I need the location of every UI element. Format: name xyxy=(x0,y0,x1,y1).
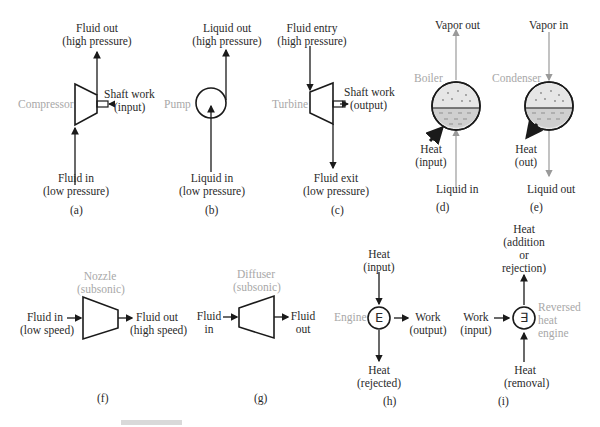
caption-i: (i) xyxy=(498,395,509,407)
diffuser-device-label: Diffuser(subsonic) xyxy=(233,268,279,294)
condenser-vapor-in-label: Vapor in xyxy=(529,19,568,32)
reversed-engine-heat-top-label: Heat(additionorrejection) xyxy=(500,223,548,275)
turbine-shaft-work-label: Shaft work(output) xyxy=(344,86,395,112)
scroll-indicator-bar xyxy=(121,420,182,425)
compressor-shaft-work-label: Shaft work(input) xyxy=(104,88,155,114)
reversed-engine-device-label: Reversedheatengine xyxy=(538,301,581,340)
condenser-liquid-out-label: Liquid out xyxy=(527,183,575,196)
nozzle-inlet-label: Fluid in(low speed) xyxy=(20,311,70,337)
engine-heat-rejected-label: Heat(rejected) xyxy=(357,364,401,390)
reversed-engine-work-input-label: Work(input) xyxy=(460,311,492,337)
condenser-heat-label: Heat(out) xyxy=(510,143,542,169)
caption-c: (c) xyxy=(331,204,344,216)
compressor-inlet-label: Fluid in(low pressure) xyxy=(40,172,112,198)
diagram-canvas xyxy=(0,0,600,427)
boiler-device-label: Boiler xyxy=(414,72,443,85)
compressor-device-label: Compressor xyxy=(18,98,74,111)
caption-e: (e) xyxy=(530,201,543,213)
pump-device-label: Pump xyxy=(164,98,191,111)
caption-d: (d) xyxy=(436,201,449,213)
compressor-outlet-label: Fluid out(high pressure) xyxy=(62,22,132,48)
caption-h: (h) xyxy=(383,395,396,407)
nozzle-device-label: Nozzle(subsonic) xyxy=(77,270,123,296)
turbine-inlet-label: Fluid entry(high pressure) xyxy=(276,22,348,48)
caption-f: (f) xyxy=(97,392,109,404)
engine-symbol-glyph: E xyxy=(373,311,385,324)
reversed-engine-heat-removal-label: Heat(removal) xyxy=(504,364,546,390)
reversed-engine-symbol-glyph: ∃ xyxy=(518,311,530,324)
nozzle-symbol xyxy=(67,297,132,339)
compressor-symbol xyxy=(75,52,112,185)
boiler-liquid-in-label: Liquid in xyxy=(436,183,479,196)
diffuser-symbol xyxy=(223,296,288,338)
engine-work-output-label: Work(output) xyxy=(408,311,448,337)
pump-outlet-label: Liquid out(high pressure) xyxy=(191,22,263,48)
turbine-symbol xyxy=(310,46,348,168)
engine-heat-input-label: Heat(input) xyxy=(362,248,396,274)
caption-a: (a) xyxy=(70,204,83,216)
caption-b: (b) xyxy=(205,204,218,216)
turbine-outlet-label: Fluid exit(low pressure) xyxy=(300,172,372,198)
pump-inlet-label: Liquid in(low pressure) xyxy=(176,172,248,198)
diffuser-inlet-label: Fluidin xyxy=(196,310,222,336)
caption-g: (g) xyxy=(254,392,267,404)
nozzle-outlet-label: Fluid out(high speed) xyxy=(130,311,184,337)
condenser-device-label: Condenser xyxy=(492,72,541,85)
turbine-device-label: Turbine xyxy=(272,98,308,111)
boiler-vapor-out-label: Vapor out xyxy=(435,19,480,32)
engine-device-label: Engine xyxy=(334,311,367,324)
pump-symbol xyxy=(196,50,226,172)
diffuser-outlet-label: Fluidout xyxy=(290,310,316,336)
boiler-heat-label: Heat(input) xyxy=(414,143,448,169)
